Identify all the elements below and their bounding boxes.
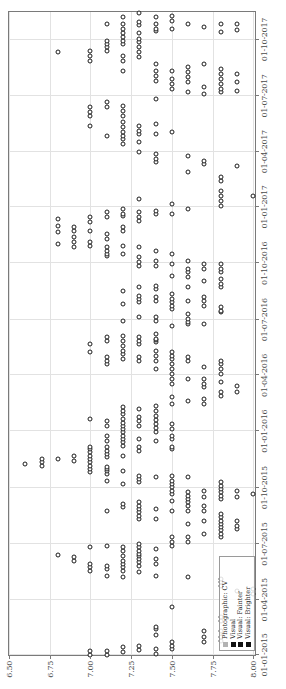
magnitude-gridline [131,12,132,655]
data-point [121,31,126,36]
data-point [72,453,77,458]
data-point [186,21,191,26]
data-point [169,382,174,387]
data-point [202,508,207,513]
data-point [137,415,142,420]
data-point [121,21,126,26]
data-point [104,464,109,469]
data-point [202,494,207,499]
legend-entry: Photographic: CV [222,561,229,647]
data-point [218,282,223,287]
data-point [169,640,174,645]
data-point [88,219,93,224]
magnitude-gridline [50,12,51,655]
data-point [72,234,77,239]
data-point [137,407,142,412]
magnitude-gridline [213,12,214,655]
data-point [169,426,174,431]
data-point [137,314,142,319]
magnitude-gridline [9,12,10,655]
data-point [186,398,191,403]
data-point [153,249,158,254]
data-point [137,334,142,339]
data-point [169,86,174,91]
data-point [153,208,158,213]
y-tick-mark [50,656,51,659]
data-point [88,239,93,244]
data-point [72,559,77,564]
data-point [169,252,174,257]
data-point [72,244,77,249]
data-point [104,439,109,444]
data-point [218,179,223,184]
data-point [186,298,191,303]
data-point [202,401,207,406]
data-point [153,366,158,371]
data-point [104,508,109,513]
data-point [121,108,126,113]
legend-entry-label: Photographic: CV [222,581,229,639]
data-point [202,640,207,645]
data-point [218,494,223,499]
data-point [137,504,142,509]
data-point [121,356,126,361]
legend-entry: Visual: Brighter [245,561,252,647]
data-point [218,29,223,34]
data-point [218,379,223,384]
data-point [39,464,44,469]
data-point [186,377,191,382]
data-point [121,645,126,650]
data-point [153,331,158,336]
x-tick-label: 01-01-2017 [260,185,269,228]
data-point [72,554,77,559]
data-point [55,223,60,228]
data-point [218,261,223,266]
data-point [218,76,223,81]
data-point [169,13,174,18]
data-point [218,512,223,517]
data-point [121,244,126,249]
data-point [186,311,191,316]
x-tick-label: 01-07-2016 [260,298,269,341]
data-point [186,540,191,545]
data-point [202,396,207,401]
data-point [153,295,158,300]
data-point [121,569,126,574]
data-point [153,418,158,423]
data-point [137,293,142,298]
data-point [104,236,109,241]
y-tick-label: 6.50 [5,661,14,678]
x-tick-mark [256,487,259,488]
data-point [153,97,158,102]
data-point [104,105,109,110]
data-point [169,540,174,545]
x-tick-mark [256,654,259,655]
data-point [169,201,174,206]
data-point [169,68,174,73]
data-point [137,149,142,154]
data-point [186,258,191,263]
data-point [169,366,174,371]
data-point [169,18,174,23]
data-point [153,21,158,26]
data-point [104,214,109,219]
data-point [23,461,28,466]
data-point [186,508,191,513]
data-point [88,48,93,53]
data-point [202,322,207,327]
data-point [121,404,126,409]
data-point [202,377,207,382]
data-point [137,355,142,360]
data-point [169,605,174,610]
data-point [121,481,126,486]
data-point [137,648,142,653]
data-point [202,303,207,308]
data-point [121,124,126,129]
legend-marker-square [238,642,243,647]
data-point [55,49,60,54]
data-point [153,336,158,341]
data-point [169,211,174,216]
data-point [88,648,93,653]
data-point [137,474,142,479]
data-point [169,26,174,31]
